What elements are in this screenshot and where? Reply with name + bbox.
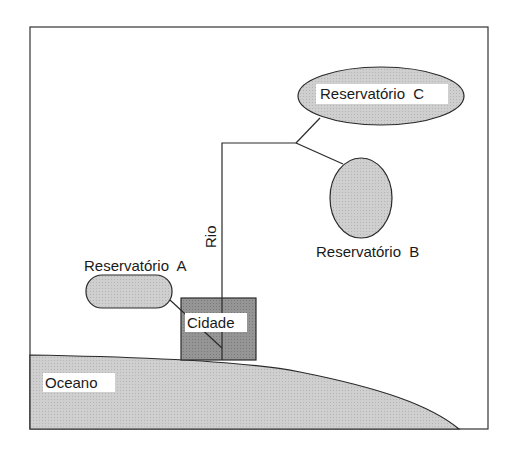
reservoir-a-shape [86,275,172,308]
ocean-label: Oceano [45,374,98,391]
river-label: Rio [202,225,219,248]
water-supply-diagram: Reservatório C Reservatório B Reservatór… [0,0,513,457]
city-label: Cidade [187,314,235,331]
reservoir-a-label: Reservatório A [84,257,187,274]
reservoir-b-shape [330,158,392,238]
reservoir-b-label: Reservatório B [316,243,419,260]
reservoir-c-label: Reservatório C [320,85,424,102]
